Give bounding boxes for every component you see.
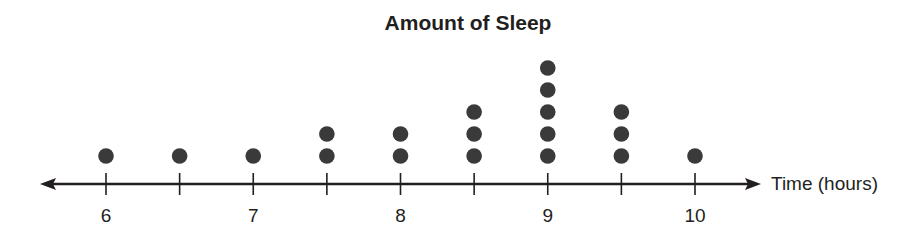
data-dot: [540, 104, 556, 120]
data-dot: [393, 126, 409, 142]
data-dot: [540, 82, 556, 98]
data-dot: [614, 104, 630, 120]
tick-label: 9: [542, 205, 553, 226]
data-dot: [687, 148, 703, 164]
data-dot: [540, 126, 556, 142]
data-dot: [466, 104, 482, 120]
tick-label: 10: [684, 205, 705, 226]
data-dots: [98, 60, 703, 164]
data-dot: [98, 148, 114, 164]
data-dot: [245, 148, 261, 164]
axis-tick-labels: 678910: [101, 205, 706, 226]
data-dot: [614, 148, 630, 164]
data-dot: [393, 148, 409, 164]
data-dot: [466, 126, 482, 142]
tick-label: 8: [395, 205, 406, 226]
data-dot: [172, 148, 188, 164]
data-dot: [319, 126, 335, 142]
data-dot: [540, 60, 556, 76]
tick-label: 7: [248, 205, 259, 226]
data-dot: [540, 148, 556, 164]
data-dot: [319, 148, 335, 164]
data-dot: [466, 148, 482, 164]
data-dot: [614, 126, 630, 142]
x-axis-label: Time (hours): [771, 173, 878, 194]
tick-label: 6: [101, 205, 112, 226]
dot-plot: 678910 Time (hours): [0, 0, 916, 240]
